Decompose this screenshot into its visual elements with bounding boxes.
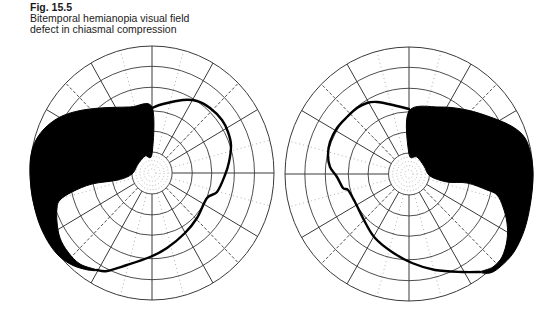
radial-line [289,190,350,207]
visual-field-charts [0,0,557,316]
radial-line [321,84,394,159]
radial-line [321,189,394,264]
radial-line [289,141,350,158]
radial-line [425,234,441,297]
scotoma-defect [30,103,154,270]
radial-line [423,189,496,264]
radial-line [166,188,238,263]
radial-line [210,140,270,157]
radial-line [166,83,238,158]
right-eye-field [285,47,533,301]
scotoma-defect [406,106,533,273]
left-eye-field [30,46,274,300]
radial-line [66,188,138,263]
radial-line [210,189,270,206]
radial-line [425,51,441,114]
radial-line [120,50,136,113]
